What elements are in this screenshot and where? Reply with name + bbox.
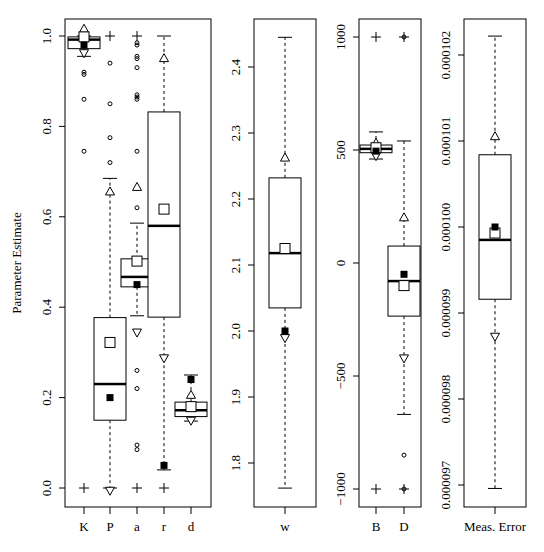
open-square-marker	[399, 281, 409, 291]
box-k: K	[68, 24, 100, 534]
y-tick-label: 0.6	[39, 208, 54, 225]
outlier-point	[108, 102, 112, 106]
triangle-down-marker	[281, 335, 290, 343]
plus-marker	[399, 32, 409, 42]
outlier-point	[82, 97, 86, 101]
y-tick-label: 0.8	[39, 118, 54, 134]
y-tick-label: 2.4	[228, 58, 243, 75]
plus-marker	[371, 484, 381, 494]
triangle-down-marker	[491, 333, 500, 341]
plus-marker	[105, 31, 115, 41]
y-tick-label: 2.1	[228, 257, 243, 273]
triangle-up-marker	[400, 213, 409, 221]
outlier-point	[135, 443, 139, 447]
triangle-down-marker	[133, 329, 142, 337]
y-tick-label: 0.000101	[438, 117, 453, 166]
y-tick-label: 1.9	[228, 389, 243, 405]
panel-w: 1.81.92.02.12.22.32.4w	[228, 19, 316, 534]
open-square-marker	[280, 244, 290, 254]
outlier-point	[135, 149, 139, 153]
plus-marker	[159, 483, 169, 493]
x-tick-label: r	[162, 519, 167, 534]
y-tick-label: 0.000100	[438, 203, 453, 252]
y-tick-label: 1.0	[39, 28, 54, 44]
panel-B-D: −1000−50005001000BD	[333, 19, 421, 534]
y-tick-label: 2.3	[228, 125, 243, 141]
filled-square-marker	[188, 376, 195, 383]
iqr-box	[94, 318, 126, 421]
y-tick-label: 1000	[333, 24, 348, 50]
plus-marker	[399, 484, 409, 494]
y-tick-label: 1.8	[228, 455, 243, 471]
y-tick-label: 0.2	[39, 389, 54, 405]
y-axis-label: Parameter Estimate	[9, 212, 24, 314]
plus-marker	[79, 483, 89, 493]
plus-marker	[132, 31, 142, 41]
filled-square-marker	[134, 281, 141, 288]
box-r: r	[148, 36, 180, 534]
x-tick-label: K	[79, 519, 89, 534]
box-measerror: Meas. Error	[464, 36, 527, 534]
triangle-down-marker	[160, 355, 169, 363]
y-tick-label: 0.000098	[438, 375, 453, 424]
plus-marker	[132, 483, 142, 493]
outlier-point	[135, 448, 139, 452]
box-d: d	[175, 375, 207, 534]
box-w: w	[269, 37, 301, 534]
y-tick-label: 0.000102	[438, 31, 453, 80]
panel-meas-error: 0.0000970.0000980.0000990.0001000.000101…	[438, 19, 527, 534]
panel-parameters-0-1: 0.00.20.40.60.81.0KPard	[39, 19, 211, 534]
y-tick-label: 0.000099	[438, 289, 453, 338]
outlier-point	[135, 387, 139, 391]
filled-square-marker	[282, 328, 289, 335]
open-square-marker	[105, 337, 115, 347]
y-tick-label: 0.0	[39, 480, 54, 496]
triangle-up-marker	[133, 182, 142, 190]
filled-square-marker	[401, 271, 408, 278]
filled-square-marker	[81, 42, 88, 49]
triangle-up-marker	[491, 132, 500, 140]
triangle-down-marker	[400, 355, 409, 363]
filled-square-marker	[161, 462, 168, 469]
triangle-down-marker	[106, 487, 115, 495]
triangle-up-marker	[281, 153, 290, 161]
outlier-point	[402, 453, 406, 457]
iqr-box	[269, 178, 301, 308]
filled-square-marker	[492, 224, 499, 231]
y-tick-label: 500	[333, 140, 348, 160]
open-square-marker	[186, 402, 196, 412]
x-tick-label: Meas. Error	[464, 519, 527, 534]
box-d: D	[388, 32, 420, 534]
outlier-point	[108, 61, 112, 65]
triangle-up-marker	[160, 54, 169, 62]
filled-square-marker	[107, 394, 114, 401]
triangle-up-marker	[80, 24, 89, 32]
box-b: B	[360, 32, 392, 534]
x-tick-label: D	[399, 519, 408, 534]
x-tick-label: B	[372, 519, 381, 534]
outlier-point	[135, 206, 139, 210]
triangle-up-marker	[106, 187, 115, 195]
y-tick-label: 0	[333, 260, 348, 267]
x-tick-label: d	[188, 519, 195, 534]
outlier-point	[135, 66, 139, 70]
x-tick-label: P	[106, 519, 113, 534]
outlier-point	[82, 149, 86, 153]
y-tick-label: 2.2	[228, 191, 243, 207]
filled-square-marker	[373, 148, 380, 155]
x-tick-label: a	[134, 519, 140, 534]
y-tick-label: −500	[333, 363, 348, 390]
triangle-up-marker	[187, 390, 196, 398]
x-tick-label: w	[280, 519, 290, 534]
y-tick-label: 0.000097	[438, 460, 453, 509]
outlier-point	[108, 136, 112, 140]
box-plot-figure: 0.00.20.40.60.81.0KPard1.81.92.02.12.22.…	[0, 0, 544, 552]
outlier-point	[135, 368, 139, 372]
outlier-point	[108, 161, 112, 165]
open-square-marker	[132, 256, 142, 266]
plus-marker	[371, 32, 381, 42]
y-tick-label: 2.0	[228, 323, 243, 339]
open-square-marker	[79, 32, 89, 42]
y-tick-label: 0.4	[39, 299, 54, 316]
open-square-marker	[159, 204, 169, 214]
